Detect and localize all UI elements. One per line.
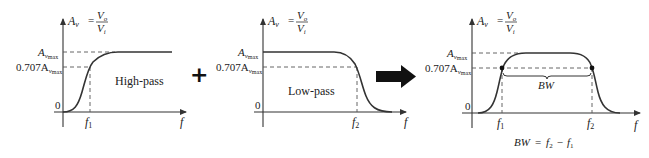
x-axis-label: f xyxy=(404,115,409,129)
high-pass-panel: Av = Vo Vi Avmax 0.707Avmax 0 f1 f High-… xyxy=(16,9,186,130)
high-pass-caption: High-pass xyxy=(115,74,164,88)
f2-point xyxy=(590,66,595,71)
plus-icon: + xyxy=(190,62,208,87)
filter-diagram: Av = Vo Vi Avmax 0.707Avmax 0 f1 f High-… xyxy=(0,0,649,158)
svg-text:Av: Av xyxy=(267,14,279,29)
svg-text:=: = xyxy=(497,14,503,26)
svg-text:Vi: Vi xyxy=(297,22,306,36)
zero-label: 0 xyxy=(465,100,471,112)
svg-text:Av: Av xyxy=(67,14,79,29)
low-pass-panel: Av = Vo Vi Avmax 0.707Avmax 0 f2 f Low-p… xyxy=(216,9,409,130)
f2-label: f2 xyxy=(587,116,594,131)
svg-text:Vo: Vo xyxy=(97,9,108,23)
right-arrow-icon xyxy=(376,65,416,88)
svg-text:Vi: Vi xyxy=(97,22,106,36)
half-power-label: 0.707Avmax xyxy=(216,61,262,75)
half-power-label: 0.707Avmax xyxy=(425,62,471,76)
x-axis-label: f xyxy=(634,118,639,132)
low-pass-curve xyxy=(263,52,392,112)
low-pass-caption: Low-pass xyxy=(288,84,335,98)
amax-label: Avmax xyxy=(446,47,467,61)
y-axis-label: Av = Vo Vi xyxy=(476,9,517,36)
svg-text:=: = xyxy=(288,14,294,26)
band-pass-panel: Av = Vo Vi Avmax 0.707Avmax 0 BW f1 f2 f… xyxy=(425,9,640,150)
zero-label: 0 xyxy=(255,99,261,111)
svg-text:Vi: Vi xyxy=(506,22,515,36)
y-axis-label: Av = Vo Vi xyxy=(67,9,108,36)
f2-label: f2 xyxy=(352,115,359,130)
f1-point xyxy=(500,66,505,71)
zero-label: 0 xyxy=(55,99,61,111)
f1-label: f1 xyxy=(497,116,504,131)
half-power-label: 0.707Avmax xyxy=(16,61,62,75)
svg-text:=: = xyxy=(88,14,94,26)
svg-text:Vo: Vo xyxy=(297,9,308,23)
bandwidth-formula: BW=f2−f1 xyxy=(514,136,574,150)
x-axis-label: f xyxy=(180,115,185,129)
amax-label: Avmax xyxy=(37,46,58,60)
bw-label: BW xyxy=(538,79,555,91)
amax-label: Avmax xyxy=(237,46,258,60)
svg-text:Av: Av xyxy=(476,14,488,29)
f1-label: f1 xyxy=(85,115,92,130)
y-axis-label: Av = Vo Vi xyxy=(267,9,308,36)
svg-text:Vo: Vo xyxy=(506,9,517,23)
